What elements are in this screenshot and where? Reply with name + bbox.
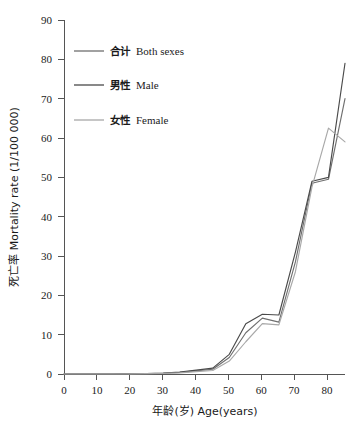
legend-label-cn-0: 合计 (109, 45, 131, 57)
legend-label-cn-1: 男性 (110, 79, 131, 91)
y-tick-label: 50 (41, 171, 53, 183)
x-tick-label: 50 (223, 384, 235, 396)
x-tick-label: 40 (190, 384, 202, 396)
y-tick-label: 70 (41, 93, 53, 105)
x-tick-label: 80 (322, 384, 334, 396)
x-tick-label: 0 (61, 384, 67, 396)
y-tick-label: 60 (41, 132, 53, 144)
legend-label-en-1: Male (136, 79, 159, 91)
y-tick-label: 0 (47, 368, 53, 380)
x-tick-label: 20 (124, 384, 136, 396)
x-tick-label: 30 (157, 384, 169, 396)
y-tick-label: 80 (41, 53, 53, 65)
legend-label-en-2: Female (136, 114, 168, 126)
x-tick-label: 60 (256, 384, 268, 396)
legend-label-en-0: Both sexes (136, 45, 184, 57)
x-tick-label: 70 (289, 384, 301, 396)
y-tick-label: 10 (41, 329, 53, 341)
mortality-rate-line-chart: 0 10 20 30 40 50 60 70 80 90 0 10 (0, 0, 360, 433)
x-tick-label: 10 (91, 384, 103, 396)
x-axis-tick-labels: 0 10 20 30 40 50 60 70 80 (61, 384, 333, 396)
x-axis-title: 年龄(岁) Age(years) (152, 404, 257, 418)
y-tick-label: 90 (41, 14, 53, 26)
y-tick-label: 40 (41, 211, 53, 223)
y-tick-label: 30 (41, 250, 53, 262)
chart-canvas: 0 10 20 30 40 50 60 70 80 90 0 10 (0, 0, 360, 433)
y-tick-label: 20 (41, 289, 53, 301)
y-axis-title: 死亡率 Mortality rate (1/100 000) (7, 107, 21, 286)
legend-label-cn-2: 女性 (110, 114, 131, 126)
